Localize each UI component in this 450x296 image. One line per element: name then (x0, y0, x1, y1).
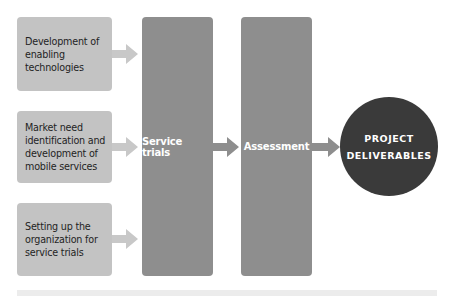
stage-service-trials: Service trials (142, 17, 213, 276)
stage-assessment: Assessment (241, 17, 312, 276)
input-label: Market need identification and developme… (25, 121, 105, 173)
input-line: Setting up the (25, 221, 91, 232)
output-label-line: PROJECT (364, 130, 413, 147)
project-deliverables-circle: PROJECT DELIVERABLES (340, 97, 438, 196)
arrow-right-icon (112, 136, 139, 158)
arrow-right-icon (112, 228, 139, 250)
input-line: Market need (25, 122, 83, 133)
output-label-line: DELIVERABLES (346, 147, 431, 164)
arrow-right-icon (312, 136, 341, 158)
input-box-market-need: Market need identification and developme… (17, 111, 112, 183)
input-line: mobile services (25, 161, 97, 172)
stage-label: Assessment (244, 141, 309, 152)
input-line: identification and (25, 135, 105, 146)
stage-label: Service trials (142, 136, 213, 158)
input-label: Development of enabling technologies (25, 35, 99, 74)
input-line: organization for (25, 234, 98, 245)
input-box-enabling-technologies: Development of enabling technologies (17, 17, 112, 91)
input-line: service trials (25, 247, 84, 258)
input-line: Development of (25, 36, 99, 47)
input-line: development of (25, 148, 98, 159)
bottom-band (17, 290, 437, 296)
input-line: technologies (25, 62, 84, 73)
input-line: enabling (25, 49, 65, 60)
input-label: Setting up the organization for service … (25, 220, 98, 259)
arrow-right-icon (212, 136, 240, 158)
input-box-organization-setup: Setting up the organization for service … (17, 203, 112, 276)
arrow-right-icon (112, 43, 139, 65)
